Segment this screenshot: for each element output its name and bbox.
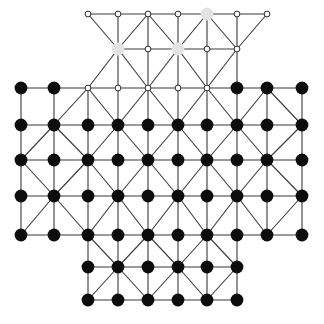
graph-node-filled[interactable] (231, 154, 244, 167)
graph-node-filled[interactable] (142, 119, 155, 132)
graph-node-filled[interactable] (142, 261, 155, 274)
graph-node-filled[interactable] (261, 229, 274, 242)
graph-node-open[interactable] (234, 46, 240, 52)
graph-node-filled[interactable] (231, 190, 244, 203)
graph-node-filled[interactable] (142, 229, 155, 242)
graph-node-filled[interactable] (82, 294, 95, 307)
graph-node-filled[interactable] (231, 261, 244, 274)
graph-node-filled[interactable] (231, 82, 244, 95)
graph-node-filled[interactable] (172, 190, 185, 203)
graph-node-filled[interactable] (48, 190, 61, 203)
graph-node-filled[interactable] (112, 154, 125, 167)
graph-node-filled[interactable] (142, 190, 155, 203)
graph-node-filled[interactable] (142, 294, 155, 307)
graph-node-filled[interactable] (172, 119, 185, 132)
graph-node-highlight[interactable] (201, 8, 214, 21)
graph-node-filled[interactable] (112, 119, 125, 132)
graph-node-filled[interactable] (201, 119, 214, 132)
graph-node-filled[interactable] (172, 229, 185, 242)
graph-node-open[interactable] (204, 85, 210, 91)
graph-node-filled[interactable] (112, 229, 125, 242)
graph-node-filled[interactable] (15, 154, 28, 167)
graph-node-filled[interactable] (201, 190, 214, 203)
graph-node-filled[interactable] (296, 119, 309, 132)
graph-node-filled[interactable] (172, 261, 185, 274)
graph-node-filled[interactable] (15, 190, 28, 203)
graph-node-filled[interactable] (15, 229, 28, 242)
graph-node-filled[interactable] (82, 229, 95, 242)
graph-node-filled[interactable] (201, 294, 214, 307)
graph-node-open[interactable] (145, 46, 151, 52)
graph-node-filled[interactable] (82, 261, 95, 274)
graph-node-filled[interactable] (296, 82, 309, 95)
graph-node-filled[interactable] (296, 229, 309, 242)
graph-node-filled[interactable] (261, 119, 274, 132)
graph-figure (0, 0, 324, 324)
graph-node-highlight[interactable] (112, 43, 125, 56)
graph-node-filled[interactable] (82, 119, 95, 132)
graph-node-filled[interactable] (231, 119, 244, 132)
graph-node-open[interactable] (204, 46, 210, 52)
graph-node-filled[interactable] (261, 82, 274, 95)
graph-node-open[interactable] (115, 11, 121, 17)
lattice-graph-canvas (0, 0, 324, 324)
graph-node-open[interactable] (175, 85, 181, 91)
graph-node-filled[interactable] (112, 294, 125, 307)
graph-node-open[interactable] (85, 85, 91, 91)
graph-node-filled[interactable] (172, 154, 185, 167)
graph-node-filled[interactable] (112, 261, 125, 274)
graph-node-filled[interactable] (112, 190, 125, 203)
graph-node-open[interactable] (264, 11, 270, 17)
graph-node-filled[interactable] (296, 154, 309, 167)
graph-node-filled[interactable] (261, 154, 274, 167)
graph-node-open[interactable] (175, 11, 181, 17)
graph-node-filled[interactable] (15, 119, 28, 132)
graph-node-filled[interactable] (82, 154, 95, 167)
graph-node-filled[interactable] (48, 82, 61, 95)
graph-node-filled[interactable] (82, 190, 95, 203)
graph-node-open[interactable] (85, 11, 91, 17)
graph-node-filled[interactable] (15, 82, 28, 95)
graph-node-filled[interactable] (261, 190, 274, 203)
graph-node-filled[interactable] (201, 261, 214, 274)
graph-node-filled[interactable] (172, 294, 185, 307)
graph-node-filled[interactable] (48, 154, 61, 167)
graph-node-filled[interactable] (231, 294, 244, 307)
graph-node-filled[interactable] (296, 190, 309, 203)
graph-node-filled[interactable] (201, 154, 214, 167)
graph-node-filled[interactable] (231, 229, 244, 242)
graph-node-filled[interactable] (201, 229, 214, 242)
graph-node-filled[interactable] (48, 229, 61, 242)
graph-node-open[interactable] (145, 85, 151, 91)
graph-node-open[interactable] (234, 11, 240, 17)
graph-node-open[interactable] (145, 11, 151, 17)
graph-node-highlight[interactable] (172, 43, 185, 56)
graph-node-filled[interactable] (48, 119, 61, 132)
graph-node-open[interactable] (115, 85, 121, 91)
graph-node-filled[interactable] (142, 154, 155, 167)
